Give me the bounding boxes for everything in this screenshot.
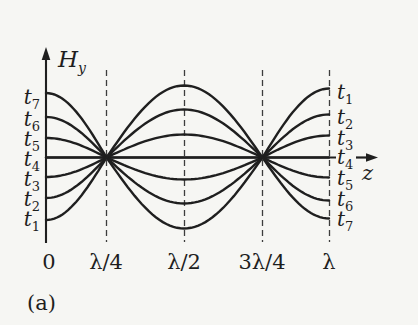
time-label-right-t1: t1 xyxy=(337,82,361,102)
time-label-right-t4: t4 xyxy=(337,147,361,167)
time-label-base: t xyxy=(337,207,345,231)
x-axis-label: z xyxy=(362,163,373,184)
time-label-base: t xyxy=(24,85,32,109)
x-tick-0: 0 xyxy=(19,252,79,273)
time-label-left-t1: t1 xyxy=(18,209,40,229)
time-label-right-t5: t5 xyxy=(337,168,361,188)
dashed-gridlines xyxy=(107,70,330,242)
x-tick-3: 3λ/4 xyxy=(232,252,292,273)
time-label-right-t6: t6 xyxy=(337,189,361,209)
time-label-left-t3: t3 xyxy=(18,169,40,189)
time-label-right-t2: t2 xyxy=(337,107,361,127)
time-label-left-t5: t5 xyxy=(18,129,40,149)
time-label-base: t xyxy=(24,207,32,231)
wave-curve-t1-t7 xyxy=(46,86,329,221)
x-tick-2: λ/2 xyxy=(154,252,214,273)
standing-wave-figure: Hy z (a) 0λ/4λ/23λ/4λ t7t6t5t4t3t2t1 t1t… xyxy=(0,0,418,325)
time-label-subscript: 7 xyxy=(345,219,353,234)
time-label-subscript: 1 xyxy=(32,219,40,234)
y-axis-arrowhead-icon xyxy=(42,47,51,60)
time-label-subscript: 1 xyxy=(345,92,353,107)
time-label-left-t4: t4 xyxy=(18,149,40,169)
time-label-right-t7: t7 xyxy=(337,209,361,229)
wave-curve-t3-t5 xyxy=(46,135,329,178)
y-axis-label: Hy xyxy=(58,48,86,71)
time-label-left-t2: t2 xyxy=(18,189,40,209)
time-label-base: t xyxy=(337,80,345,104)
panel-label: (a) xyxy=(27,293,56,314)
x-tick-1: λ/4 xyxy=(76,252,136,273)
x-tick-4: λ xyxy=(299,252,359,273)
time-label-left-t7: t7 xyxy=(18,87,40,107)
wave-curves xyxy=(46,86,329,229)
time-label-left-t6: t6 xyxy=(18,109,40,129)
